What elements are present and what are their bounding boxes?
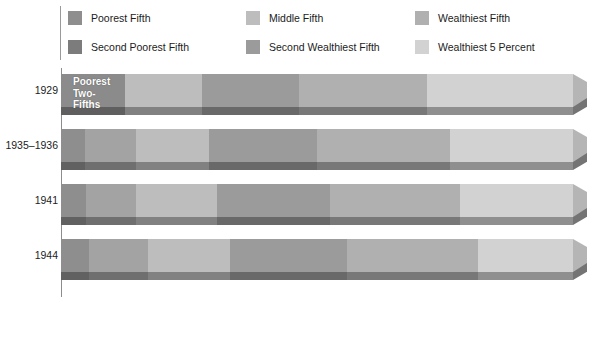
bar-segment[interactable] [330,184,461,217]
bar-segment-front-face [330,217,461,225]
bar-segment-front-face [85,162,136,170]
legend-item-label: Second Poorest Fifth [91,42,189,53]
bar-end-cap-3d [573,129,587,170]
bar-segment[interactable] [148,239,230,272]
legend-swatch-middle-fifth [246,11,260,25]
legend-item[interactable]: Second Wealthiest Fifth [246,39,380,55]
bar-segment[interactable] [86,184,136,217]
bar-segment[interactable] [317,129,450,162]
bar-segment[interactable] [61,239,89,272]
legend-item-label: Poorest Fifth [91,13,151,24]
bar-segment-front-face [347,272,479,280]
bar-segment-front-face [136,217,216,225]
bar-segment-front-face [478,272,573,280]
bar-segment-front-face [427,107,573,115]
bar-segment[interactable] [478,239,573,272]
bar-end-cap-3d [573,74,587,115]
legend-swatch-second-wealthiest-fifth [246,40,260,54]
stacked-bar-body [61,129,573,162]
legend-divider [60,6,61,60]
bar-segment-front-face [202,107,299,115]
legend-column-1: Middle FifthSecond Wealthiest Fifth [246,4,422,62]
bar-segment[interactable] [209,129,317,162]
bar-segment-front-face [230,272,347,280]
legend-item[interactable]: Wealthiest 5 Percent [415,39,535,55]
legend-swatch-wealthiest-5-percent [415,40,429,54]
bar-segment-front-face [61,272,89,280]
legend-item-label: Wealthiest 5 Percent [438,42,535,53]
legend-item[interactable]: Middle Fifth [246,10,323,26]
legend-item[interactable]: Wealthiest Fifth [415,10,510,26]
bar-year-label: 1941 [35,194,58,206]
bar-end-cap-3d [573,239,587,280]
chart-plot-area: Percentage 1020304050607080901001929Poor… [0,62,598,337]
bar-segment-front-face [450,162,573,170]
bar-segment-front-face [217,217,330,225]
legend-swatch-second-poorest-fifth [68,40,82,54]
bar-segment-front-face [299,107,427,115]
bar-segment[interactable] [450,129,573,162]
bar-year-label: 1944 [35,249,58,261]
bar-segment-front-face [86,217,136,225]
stacked-bar-body [61,74,573,107]
bar-year-label: 1929 [35,84,58,96]
legend-item[interactable]: Poorest Fifth [68,10,151,26]
bar-segment[interactable] [230,239,347,272]
bar-segment-front-face [317,162,450,170]
bar-segment-front-face [61,217,86,225]
bar-segment[interactable] [89,239,148,272]
bar-segment[interactable] [61,184,86,217]
bar-segment[interactable] [217,184,330,217]
bar-end-cap-3d [573,184,587,225]
legend-item[interactable]: Second Poorest Fifth [68,39,189,55]
bar-segment-front-face [89,272,148,280]
stacked-bar-body [61,184,573,217]
bar-segment[interactable] [85,129,136,162]
bar-segment-front-face [148,272,230,280]
bar-segment[interactable] [427,74,573,107]
legend-column-0: Poorest FifthSecond Poorest Fifth [68,4,244,62]
bar-segment[interactable] [61,129,85,162]
bar-segment[interactable] [125,74,202,107]
bar-segment-front-face [125,107,202,115]
stacked-bar-body [61,239,573,272]
bar-annotation-poorest-two-fifths: Poorest Two-Fifths [73,76,110,111]
legend-swatch-wealthiest-fifth [415,11,429,25]
legend-item-label: Wealthiest Fifth [438,13,510,24]
legend-item-label: Second Wealthiest Fifth [269,42,380,53]
chart-legend: Poorest FifthSecond Poorest FifthMiddle … [60,4,590,62]
bar-segment[interactable] [460,184,573,217]
bar-segment[interactable] [202,74,299,107]
bar-segment[interactable] [299,74,427,107]
legend-swatch-poorest-fifth [68,11,82,25]
bar-segment[interactable] [347,239,479,272]
bar-segment[interactable] [136,129,209,162]
bar-segment-front-face [136,162,209,170]
bar-segment-front-face [209,162,317,170]
bar-segment[interactable] [136,184,216,217]
bar-segment-front-face [460,217,573,225]
bar-year-label: 1935–1936 [5,139,58,151]
bar-segment-front-face [61,162,85,170]
legend-column-2: Wealthiest FifthWealthiest 5 Percent [415,4,591,62]
legend-item-label: Middle Fifth [269,13,323,24]
